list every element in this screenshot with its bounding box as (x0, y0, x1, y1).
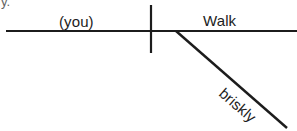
subject-label: (you) (59, 13, 94, 30)
adverb-slant-line (176, 31, 287, 128)
adverb-label: briskly (216, 84, 260, 125)
sentence-diagram-canvas: y. (you) Walk briskly (0, 0, 297, 131)
clipped-ink-artifact: y. (1, 0, 10, 9)
sentence-diagram-svg: y. (you) Walk briskly (0, 0, 297, 131)
verb-label: Walk (203, 12, 237, 29)
